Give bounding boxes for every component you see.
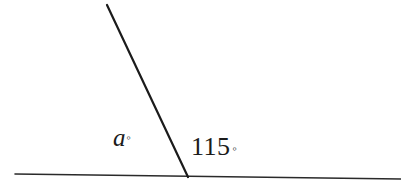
angle-label-115: 115◦ bbox=[191, 134, 237, 160]
angle-variable-a: a bbox=[113, 124, 126, 151]
angle-diagram: a◦ 115◦ bbox=[0, 0, 401, 185]
degree-symbol-icon: ◦ bbox=[233, 141, 238, 156]
angle-value-115: 115 bbox=[191, 132, 231, 161]
degree-symbol-icon: ◦ bbox=[127, 130, 132, 145]
angle-label-a: a◦ bbox=[113, 125, 131, 150]
vertex-point bbox=[187, 176, 189, 178]
